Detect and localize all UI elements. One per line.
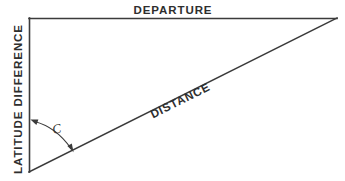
label-distance: DISTANCE bbox=[148, 80, 212, 120]
label-departure: DEPARTURE bbox=[134, 4, 213, 16]
triangle-diagram: DEPARTURE LATITUDE DIFFERENCE DISTANCE C bbox=[0, 0, 345, 181]
label-latitude-difference: LATITUDE DIFFERENCE bbox=[12, 24, 24, 174]
angle-arc-arrowhead-top bbox=[30, 119, 38, 125]
label-angle-c: C bbox=[51, 120, 63, 137]
diagram-canvas: DEPARTURE LATITUDE DIFFERENCE DISTANCE C bbox=[0, 0, 345, 181]
